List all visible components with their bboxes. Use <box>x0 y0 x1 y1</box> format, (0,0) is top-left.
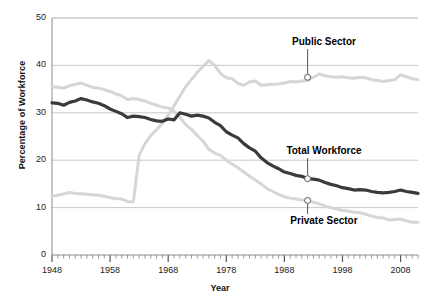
y-tick-label: 0 <box>24 249 46 259</box>
series-label-private-sector: Private Sector <box>276 215 372 226</box>
annotation-marker <box>305 74 311 80</box>
series-line-public-sector <box>52 61 418 202</box>
x-axis-title: Year <box>0 283 440 293</box>
y-tick-label: 40 <box>24 59 46 69</box>
x-axis-ticks <box>52 255 418 262</box>
series-label-total-workforce: Total Workforce <box>272 145 376 156</box>
y-tick-label: 50 <box>24 12 46 22</box>
x-tick-label: 1958 <box>90 265 130 275</box>
series-layer <box>52 61 418 223</box>
x-tick-label: 1968 <box>148 265 188 275</box>
x-tick-label: 2008 <box>381 265 421 275</box>
line-chart: Percentage of Workforce Year 50403020100… <box>0 0 440 303</box>
x-tick-label: 1978 <box>206 265 246 275</box>
y-tick-label: 20 <box>24 154 46 164</box>
x-tick-label: 1948 <box>32 265 72 275</box>
series-label-public-sector: Public Sector <box>278 36 370 47</box>
annotation-leaders <box>305 49 311 214</box>
y-tick-label: 10 <box>24 202 46 212</box>
x-tick-label: 1998 <box>322 265 362 275</box>
x-tick-label: 1988 <box>264 265 304 275</box>
annotation-marker <box>305 176 311 182</box>
y-tick-label: 30 <box>24 107 46 117</box>
annotation-marker <box>305 197 311 203</box>
